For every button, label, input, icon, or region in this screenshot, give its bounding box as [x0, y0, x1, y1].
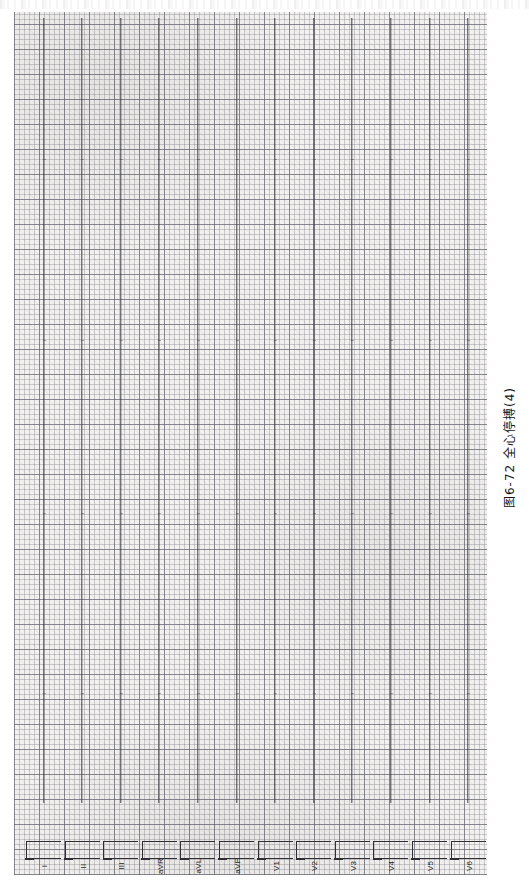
- scan-artifact-band: [0, 0, 529, 9]
- trace-wobble: [428, 340, 431, 341]
- trace-wobble: [197, 340, 200, 341]
- lead-label-i: I: [37, 847, 51, 876]
- lead-label-v6: V6: [461, 847, 475, 876]
- trace-wobble: [274, 159, 277, 160]
- lead-trace-v3: [352, 18, 353, 803]
- trace-wobble: [235, 159, 238, 160]
- trace-wobble: [81, 513, 84, 514]
- trace-wobble: [467, 513, 470, 514]
- trace-wobble: [42, 159, 45, 160]
- lead-channel-v1: V1: [256, 12, 295, 875]
- trace-wobble: [428, 693, 431, 694]
- trace-wobble: [390, 340, 393, 341]
- trace-wobble: [428, 513, 431, 514]
- lead-trace-v2: [313, 18, 314, 803]
- lead-label-v4: V4: [384, 847, 398, 876]
- trace-wobble: [158, 513, 161, 514]
- trace-wobble: [119, 693, 122, 694]
- trace-wobble: [42, 693, 45, 694]
- figure-caption-text: 图6-72 全心停搏(4): [501, 386, 518, 507]
- lead-trace-v1: [274, 18, 275, 803]
- trace-wobble: [390, 693, 393, 694]
- lead-trace-v4: [390, 18, 391, 803]
- trace-wobble: [428, 159, 431, 160]
- lead-trace-avr: [159, 18, 160, 803]
- trace-wobble: [81, 693, 84, 694]
- trace-wobble: [467, 340, 470, 341]
- trace-wobble: [42, 340, 45, 341]
- lead-label-v5: V5: [423, 847, 437, 876]
- lead-label-v1: V1: [268, 847, 282, 876]
- trace-wobble: [119, 513, 122, 514]
- figure-caption: 图6-72 全心停搏(4): [489, 0, 529, 894]
- trace-wobble: [235, 513, 238, 514]
- trace-wobble: [235, 693, 238, 694]
- lead-label-avf: aVF: [230, 847, 244, 876]
- lead-label-iii: III: [114, 847, 128, 876]
- trace-wobble: [351, 693, 354, 694]
- lead-channel-i: I: [24, 12, 63, 875]
- trace-wobble: [274, 693, 277, 694]
- trace-wobble: [312, 513, 315, 514]
- lead-trace-v6: [467, 18, 468, 803]
- ecg-figure-page: IIIIIIaVRaVLaVFV1V2V3V4V5V6 图6-72 全心停搏(4…: [0, 0, 529, 894]
- lead-trace-v5: [429, 18, 430, 803]
- lead-channel-v2: V2: [294, 12, 333, 875]
- lead-channel-v3: V3: [333, 12, 372, 875]
- trace-wobble: [351, 513, 354, 514]
- trace-wobble: [197, 513, 200, 514]
- trace-wobble: [351, 340, 354, 341]
- trace-wobble: [467, 159, 470, 160]
- lead-trace-i: [43, 18, 44, 803]
- trace-wobble: [81, 159, 84, 160]
- lead-trace-iii: [120, 18, 121, 803]
- trace-wobble: [197, 693, 200, 694]
- lead-channel-ii: II: [63, 12, 102, 875]
- lead-channel-avr: aVR: [140, 12, 179, 875]
- lead-channel-v4: V4: [371, 12, 410, 875]
- lead-label-v3: V3: [345, 847, 359, 876]
- trace-wobble: [158, 159, 161, 160]
- lead-trace-avl: [197, 18, 198, 803]
- trace-wobble: [235, 340, 238, 341]
- lead-channel-v5: V5: [410, 12, 449, 875]
- trace-wobble: [312, 159, 315, 160]
- trace-wobble: [274, 513, 277, 514]
- trace-wobble: [119, 340, 122, 341]
- lead-trace-avf: [236, 18, 237, 803]
- trace-wobble: [158, 340, 161, 341]
- lead-channel-avl: aVL: [178, 12, 217, 875]
- trace-wobble: [119, 159, 122, 160]
- trace-wobble: [312, 693, 315, 694]
- trace-wobble: [390, 513, 393, 514]
- lead-label-ii: II: [75, 847, 89, 876]
- lead-channel-iii: III: [101, 12, 140, 875]
- ecg-paper: IIIIIIaVRaVLaVFV1V2V3V4V5V6: [14, 12, 487, 875]
- lead-label-avl: aVL: [191, 847, 205, 876]
- trace-wobble: [42, 513, 45, 514]
- lead-channel-v6: V6: [449, 12, 487, 875]
- trace-wobble: [274, 340, 277, 341]
- trace-wobble: [197, 159, 200, 160]
- lead-trace-ii: [81, 18, 82, 803]
- lead-label-avr: aVR: [152, 847, 166, 876]
- trace-wobble: [158, 693, 161, 694]
- trace-wobble: [81, 340, 84, 341]
- trace-wobble: [312, 340, 315, 341]
- trace-wobble: [351, 159, 354, 160]
- trace-wobble: [467, 693, 470, 694]
- lead-label-v2: V2: [307, 847, 321, 876]
- trace-wobble: [390, 159, 393, 160]
- lead-channel-avf: aVF: [217, 12, 256, 875]
